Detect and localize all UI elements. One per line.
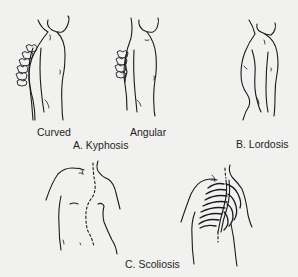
kyphosis-curved-label: Curved bbox=[37, 126, 71, 138]
kyphosis-angular-label: Angular bbox=[130, 126, 166, 138]
vertebrae-icon bbox=[16, 45, 37, 87]
panel-a-kyphosis-label: A. Kyphosis bbox=[73, 139, 128, 151]
kyphosis-curved-figure bbox=[16, 16, 69, 120]
ribs-icon bbox=[199, 180, 241, 232]
panel-c-scoliosis-label: C. Scoliosis bbox=[125, 258, 180, 270]
lordosis-figure bbox=[241, 20, 278, 120]
scoliosis-rib-cage-figure bbox=[181, 165, 252, 266]
panel-b-lordosis-label: B. Lordosis bbox=[236, 138, 289, 150]
scoliosis-back-dotted-spine-figure bbox=[46, 161, 120, 254]
kyphosis-angular-figure bbox=[115, 18, 159, 116]
spinal-deformities-diagram: Curved Angular A. Kyphosis B. Lordosis C… bbox=[0, 0, 298, 277]
